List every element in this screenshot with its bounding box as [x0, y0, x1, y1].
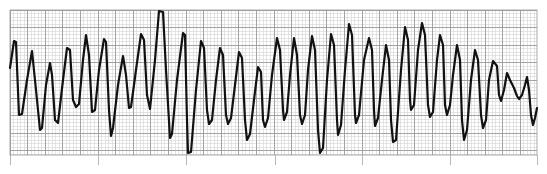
ecg-rhythm-strip [0, 0, 547, 174]
grid-major-lines [10, 10, 537, 155]
time-marks [10, 155, 537, 165]
ecg-chart [0, 0, 547, 174]
ecg-trace [10, 11, 537, 153]
